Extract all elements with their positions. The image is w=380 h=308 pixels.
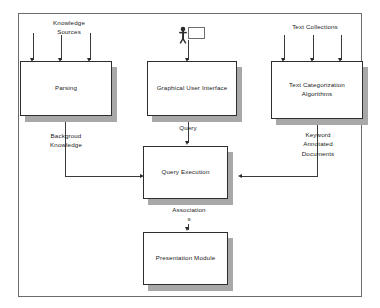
input-label-text-collections: Text Collections [275, 22, 355, 31]
edge-label-keyword-annotated-documents: Keyword Annotated Documents [294, 130, 342, 158]
input-label-knowledge-sources: Knowledge Sources [32, 18, 106, 37]
input-arrow-line-tc-1 [284, 35, 285, 60]
input-arrow-line-tc-2 [313, 35, 314, 60]
node-parsing[interactable]: Parsing [20, 61, 112, 116]
input-arrow-line-tc-3 [341, 35, 342, 60]
node-text-categorization-algorithms-label: Text Categorization Algorithms [286, 81, 348, 99]
edge-arrow-gui-to-query-execution [185, 141, 189, 145]
input-arrow-line-ks-3 [90, 33, 91, 60]
edge-arrow-query-execution-to-presentation [185, 227, 189, 231]
screen-icon [188, 27, 205, 39]
edge-label-background-knowledge: Backgroud Knowledge [42, 131, 90, 150]
node-text-categorization-algorithms[interactable]: Text Categorization Algorithms [271, 61, 363, 119]
input-arrow-line-ks-1 [33, 33, 34, 60]
edge-label-query: Query [168, 123, 208, 132]
node-parsing-label: Parsing [52, 84, 80, 93]
node-query-execution-label: Query Execution [159, 168, 213, 177]
edge-line-textcat-left [240, 176, 318, 177]
node-presentation-module-label: Presentation Module [153, 254, 219, 263]
diagram-canvas: Knowledge Sources Text Collections Parsi… [0, 0, 380, 308]
node-presentation-module[interactable]: Presentation Module [143, 232, 228, 285]
edge-line-parsing-right [65, 176, 142, 177]
node-query-execution[interactable]: Query Execution [143, 146, 228, 199]
input-arrow-line-ks-2 [61, 35, 62, 60]
edge-arrow-textcat-to-query-execution [238, 174, 242, 178]
node-graphical-user-interface[interactable]: Graphical User Interface [147, 61, 237, 116]
node-graphical-user-interface-label: Graphical User Interface [154, 84, 231, 93]
edge-label-associations: Association s [163, 205, 215, 224]
